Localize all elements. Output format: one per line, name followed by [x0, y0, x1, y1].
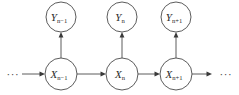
node-x-prev[interactable]: Xn−1	[45, 58, 77, 90]
emit-next	[174, 32, 179, 58]
emit-prev	[59, 32, 64, 58]
node-x-prev-sub: n−1	[57, 74, 67, 81]
edge-out-right	[192, 72, 212, 77]
hmm-diagram: Yn−1 Yn Yn+1 Xn−1 Xn Xn	[0, 0, 239, 95]
node-x-next[interactable]: Xn+1	[160, 58, 192, 90]
edge-curr-next	[138, 72, 160, 77]
emission-edges-group	[59, 32, 179, 58]
edge-prev-curr-arrowhead	[101, 72, 107, 77]
node-x-next-sub: n+1	[172, 74, 182, 81]
observed-nodes-group: Yn−1 Yn Yn+1	[46, 2, 191, 32]
edge-prev-curr	[77, 72, 106, 77]
node-y-next[interactable]: Yn+1	[161, 2, 191, 32]
emit-curr-arrowhead	[120, 32, 125, 38]
emit-next-arrowhead	[174, 32, 179, 38]
node-x-curr[interactable]: Xn	[106, 58, 138, 90]
edge-out-right-arrowhead	[207, 72, 213, 77]
hidden-nodes-group: Xn−1 Xn Xn+1	[45, 58, 192, 90]
ellipsis-right: ···	[220, 68, 233, 80]
node-y-curr[interactable]: Yn	[107, 2, 137, 32]
ellipsis-left: ···	[7, 68, 20, 80]
edge-in-left	[22, 72, 45, 77]
hmm-graph-canvas: Yn−1 Yn Yn+1 Xn−1 Xn Xn	[0, 0, 239, 95]
edge-curr-next-arrowhead	[155, 72, 161, 77]
edge-in-left-arrowhead	[40, 72, 46, 77]
emit-prev-arrowhead	[59, 32, 64, 38]
node-y-next-sub: n+1	[172, 17, 182, 24]
node-y-prev[interactable]: Yn−1	[46, 2, 76, 32]
emit-curr	[120, 32, 125, 58]
node-y-prev-sub: n−1	[57, 17, 67, 24]
